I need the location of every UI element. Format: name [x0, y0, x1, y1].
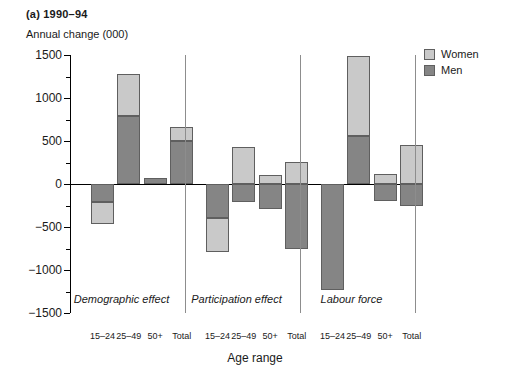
y-axis-tick-label: −1500	[28, 306, 62, 320]
y-axis-tick-label: −1000	[28, 263, 62, 277]
y-axis-tick	[64, 313, 70, 314]
y-axis-minor-tick	[66, 120, 70, 121]
x-axis-tick-label: Total	[402, 331, 421, 341]
figure-title: (a) 1990–94	[26, 8, 88, 20]
plot-right-border	[415, 55, 416, 313]
x-axis-tick-label: 50+	[378, 331, 393, 341]
bar-segment-men	[285, 184, 308, 249]
bar-segment-women	[232, 147, 255, 184]
legend-label: Women	[441, 48, 479, 60]
bar-segment-men	[232, 184, 255, 202]
x-axis-tick-label: 25–49	[231, 331, 256, 341]
x-axis-tick-label: 15–24	[320, 331, 345, 341]
y-axis-tick	[64, 141, 70, 142]
bar-segment-women	[170, 127, 193, 141]
y-axis-minor-tick	[66, 163, 70, 164]
bar-segment-women	[259, 175, 282, 184]
bar-segment-men	[321, 184, 344, 290]
x-axis-tick-label: 15–24	[90, 331, 115, 341]
y-axis-tick	[64, 55, 70, 56]
panel-label: Demographic effect	[74, 293, 169, 305]
x-axis-tick-label: 25–49	[346, 331, 371, 341]
bar-segment-men	[170, 141, 193, 184]
bar-segment-women	[285, 162, 308, 184]
bar-segment-women	[374, 174, 397, 184]
bar-segment-women	[400, 145, 423, 184]
x-axis-tick-label: 50+	[148, 331, 163, 341]
plot-area	[70, 55, 415, 313]
x-axis-tick-label: 50+	[263, 331, 278, 341]
legend-swatch-icon	[424, 49, 435, 60]
y-axis-tick	[64, 184, 70, 185]
legend-swatch-icon	[424, 65, 435, 76]
panel-label: Labour force	[321, 293, 383, 305]
y-axis-minor-tick	[66, 249, 70, 250]
bar-segment-women	[347, 56, 370, 136]
bar-segment-men	[91, 184, 114, 202]
panel-separator	[300, 55, 301, 313]
bar-segment-men	[374, 184, 397, 201]
x-axis-tick-label: Total	[287, 331, 306, 341]
y-axis-tick	[64, 270, 70, 271]
x-axis-tick-label: Total	[172, 331, 191, 341]
bar-segment-women	[117, 74, 140, 116]
y-axis-minor-tick	[66, 292, 70, 293]
bar-segment-men	[347, 136, 370, 184]
panel-separator	[185, 55, 186, 313]
legend-label: Men	[441, 64, 462, 76]
x-axis-tick-label: 25–49	[116, 331, 141, 341]
y-axis-label: Annual change (000)	[26, 28, 128, 40]
bar-segment-men	[259, 184, 282, 209]
y-axis-tick-label: 1500	[35, 48, 62, 62]
x-axis-tick-label: 15–24	[205, 331, 230, 341]
chart-figure: (a) 1990–94 Annual change (000) 15001000…	[0, 0, 510, 374]
bar-segment-men	[400, 184, 423, 206]
legend-item[interactable]: Women	[424, 48, 479, 60]
x-axis-label: Age range	[0, 351, 510, 365]
bar-segment-women	[91, 202, 114, 224]
bar-segment-men	[206, 184, 229, 218]
y-axis-tick-label: 0	[55, 177, 62, 191]
y-axis-tick-label: 1000	[35, 91, 62, 105]
y-axis-tick	[64, 98, 70, 99]
legend-item[interactable]: Men	[424, 64, 479, 76]
legend: WomenMen	[424, 48, 479, 80]
bar-segment-men	[117, 116, 140, 184]
bar-segment-men	[144, 178, 167, 184]
y-axis-tick	[64, 227, 70, 228]
y-axis-tick-label: 500	[42, 134, 62, 148]
panel-label: Participation effect	[191, 293, 282, 305]
y-axis-minor-tick	[66, 77, 70, 78]
bar-segment-women	[206, 218, 229, 252]
y-axis-minor-tick	[66, 206, 70, 207]
y-axis-tick-labels: 150010005000−500−1000−1500	[18, 55, 62, 313]
y-axis-tick-label: −500	[35, 220, 62, 234]
